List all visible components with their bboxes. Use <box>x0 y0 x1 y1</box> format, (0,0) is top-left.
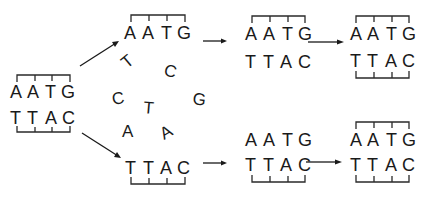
split-arrow-down <box>82 133 121 158</box>
base: T <box>245 52 256 72</box>
free-nucleotide: C <box>162 61 179 83</box>
arrow-head-icon <box>337 40 344 45</box>
lower-final-bottom-backbone <box>356 175 409 182</box>
parent-duplex: A A T G T T A C <box>10 75 75 132</box>
lower-final-duplex: A A T G T T A C <box>350 122 416 182</box>
base: A <box>45 108 57 128</box>
base: G <box>402 130 416 150</box>
free-nucleotide: G <box>191 89 207 110</box>
base: A <box>160 158 172 178</box>
arrow-head-icon <box>112 41 119 47</box>
upper-strand-backbone <box>131 15 185 22</box>
base: G <box>298 130 312 150</box>
base: A <box>142 23 154 43</box>
diagram-svg: A A T G T T A C A A T G T C G C T A A T … <box>0 0 430 201</box>
arrow-head-icon <box>114 152 121 158</box>
base: A <box>263 24 275 44</box>
base: A <box>280 52 292 72</box>
base: A <box>124 23 136 43</box>
base: C <box>402 51 415 71</box>
free-nucleotide: A <box>122 122 134 141</box>
base: A <box>27 82 39 102</box>
base: T <box>143 158 154 178</box>
base: G <box>402 24 416 44</box>
split-arrow-up <box>80 41 119 66</box>
arrow-upper-to-intermediate <box>203 39 227 44</box>
arrow-head-icon <box>221 161 227 166</box>
arrow-line <box>82 133 118 156</box>
base: T <box>245 155 256 175</box>
free-nucleotide: A <box>157 121 177 143</box>
base: A <box>280 155 292 175</box>
upper-final-top-backbone <box>356 16 409 23</box>
arrow-line <box>80 43 116 66</box>
base: A <box>245 130 257 150</box>
base: G <box>61 82 75 102</box>
base: A <box>245 24 257 44</box>
base: A <box>263 130 275 150</box>
base: A <box>350 130 362 150</box>
base: G <box>177 23 191 43</box>
upper-intermediate-top-backbone <box>252 16 305 23</box>
base: T <box>263 52 274 72</box>
base: T <box>161 23 172 43</box>
base: C <box>298 155 311 175</box>
base: T <box>263 155 274 175</box>
lower-final-top-backbone <box>356 122 409 129</box>
base: A <box>350 24 362 44</box>
separated-lower-strand: T T A C <box>125 158 190 184</box>
separated-upper-strand: A A T G <box>124 15 191 43</box>
free-nucleotide: C <box>110 88 125 109</box>
base: T <box>367 155 378 175</box>
base: A <box>367 24 379 44</box>
base: T <box>386 130 397 150</box>
base: C <box>402 155 415 175</box>
upper-final-duplex: A A T G T T A C <box>350 16 416 78</box>
base: G <box>298 24 312 44</box>
arrow-head-icon <box>335 160 342 165</box>
base: C <box>62 108 75 128</box>
arrow-upper-to-final <box>308 40 344 45</box>
base: A <box>10 82 22 102</box>
base: T <box>27 108 38 128</box>
base: T <box>350 51 361 71</box>
arrow-lower-to-final <box>306 160 342 165</box>
free-nucleotide: T <box>143 98 155 118</box>
base: T <box>386 24 397 44</box>
lower-intermediate-bottom-backbone <box>252 175 305 182</box>
base: C <box>177 158 190 178</box>
lower-strand-backbone <box>131 177 185 184</box>
base: A <box>385 51 397 71</box>
upper-final-bottom-backbone <box>356 71 409 78</box>
base: T <box>125 158 136 178</box>
base: A <box>385 155 397 175</box>
base: T <box>10 108 21 128</box>
base: T <box>282 130 293 150</box>
base: T <box>282 24 293 44</box>
base: A <box>367 130 379 150</box>
parent-top-backbone <box>17 75 70 82</box>
base: T <box>350 155 361 175</box>
base: T <box>367 51 378 71</box>
base: T <box>45 82 56 102</box>
dna-replication-diagram: A A T G T T A C A A T G T C G C T A A T … <box>0 0 430 201</box>
arrow-lower-to-intermediate <box>203 161 227 166</box>
arrow-head-icon <box>221 39 227 44</box>
base: C <box>298 52 311 72</box>
upper-intermediate-duplex: A A T G T T A C <box>245 16 312 72</box>
free-nucleotide: T <box>117 51 137 72</box>
lower-intermediate-duplex: A A T G T T A C <box>245 130 312 182</box>
free-nucleotides: T C G C T A A <box>110 51 207 144</box>
